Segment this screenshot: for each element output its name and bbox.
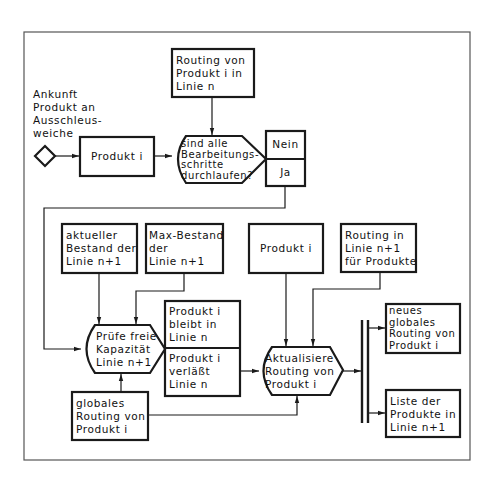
start-diamond bbox=[35, 146, 55, 166]
start-label: Ankunft Produkt an Ausschleus- weiche bbox=[33, 88, 102, 140]
label-ja: Ja bbox=[266, 166, 305, 179]
label-nein: Nein bbox=[266, 138, 305, 151]
label-neues-globales-routing: neues globales Routing von Produkt i bbox=[389, 305, 456, 351]
label-globales-routing: globales Routing von Produkt i bbox=[76, 397, 146, 436]
label-aktueller-bestand: aktueller Bestand der Linie n+1 bbox=[66, 229, 136, 268]
label-max-bestand: Max-Bestand der Linie n+1 bbox=[149, 229, 224, 268]
label-verlaesst: Produkt i verläßt Linie n bbox=[169, 352, 221, 391]
label-bleibt: Produkt i bleibt in Linie n bbox=[169, 305, 221, 344]
label-decision: sind alle Bearbeitungs- schritte durchla… bbox=[181, 139, 259, 181]
label-routing-linie-n1: Routing in Linie n+1 für Produkte bbox=[345, 229, 417, 268]
label-routing-linie-n: Routing von Produkt i in Linie n bbox=[176, 54, 246, 93]
label-produkt-i-start: Produkt i bbox=[80, 150, 154, 163]
label-pruefe: Prüfe freie Kapazität Linie n+1 bbox=[96, 330, 157, 369]
label-aktualisiere: Aktualisiere Routing von Produkt i bbox=[265, 352, 335, 391]
label-liste-produkte: Liste der Produkte in Linie n+1 bbox=[390, 395, 456, 434]
label-produkt-i-second: Produkt i bbox=[249, 242, 323, 255]
